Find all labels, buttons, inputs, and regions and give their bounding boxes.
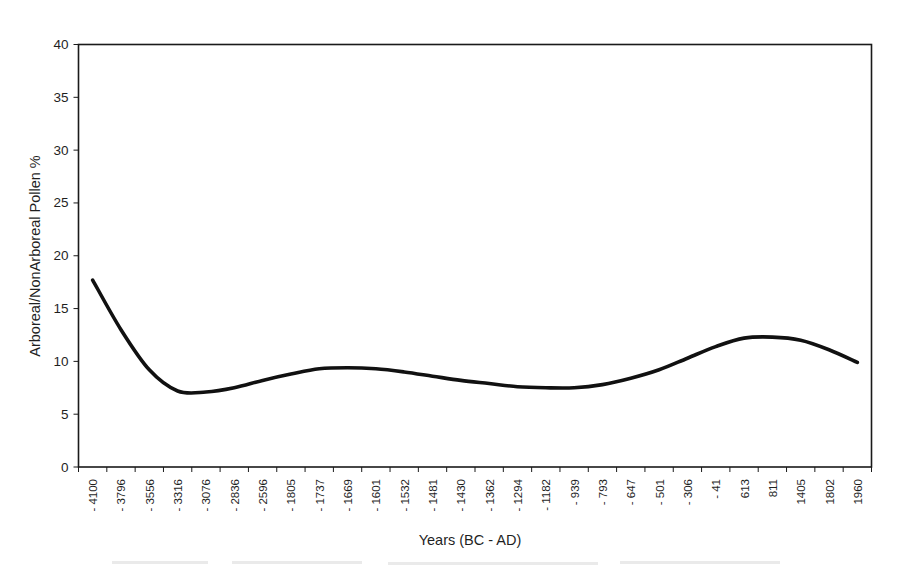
x-tick-label: - 1737 xyxy=(314,479,326,512)
x-tick-label: - 1294 xyxy=(512,478,524,511)
x-tick-label: - 1532 xyxy=(399,479,411,512)
pollen-percentage-chart: 0510152025303540 - 4100- 3796- 3556- 331… xyxy=(0,0,908,571)
x-tick-label: - 306 xyxy=(682,479,694,505)
y-tick-label: 5 xyxy=(61,407,69,422)
x-tick-label: - 647 xyxy=(625,479,637,505)
y-tick-label: 35 xyxy=(53,90,68,105)
y-tick-label: 25 xyxy=(53,195,68,210)
y-tick-label: 40 xyxy=(53,37,68,52)
x-tick-label: - 2836 xyxy=(229,479,241,512)
x-tick-label: - 939 xyxy=(569,479,581,505)
x-tick-label: - 1182 xyxy=(540,479,552,511)
x-tick-label: 613 xyxy=(739,479,751,498)
x-tick-label: - 2596 xyxy=(257,479,269,512)
x-tick-label: 1802 xyxy=(824,479,836,505)
y-axis-title: Arboreal/NonArboreal Pollen % xyxy=(27,155,43,357)
x-tick-label: - 1481 xyxy=(427,479,439,512)
x-axis-title: Years (BC - AD) xyxy=(419,532,522,548)
chart-canvas: 0510152025303540 - 4100- 3796- 3556- 331… xyxy=(0,0,908,571)
x-tick-label: - 3316 xyxy=(172,479,184,512)
x-tick-label: - 1430 xyxy=(455,479,467,512)
x-tick-label: - 1805 xyxy=(285,479,297,512)
y-tick-label: 15 xyxy=(53,301,68,316)
x-tick-label: - 501 xyxy=(654,479,666,505)
y-tick-label: 10 xyxy=(53,354,68,369)
x-tick-label: - 1601 xyxy=(370,479,382,512)
x-tick-label: 811 xyxy=(767,479,779,497)
y-tick-label: 30 xyxy=(53,143,68,158)
x-tick-label: 1960 xyxy=(852,479,864,505)
x-tick-label: - 1362 xyxy=(484,479,496,512)
x-tick-label: - 4100 xyxy=(87,479,99,512)
x-tick-label: - 793 xyxy=(597,479,609,505)
x-tick-label: - 3796 xyxy=(115,479,127,512)
x-tick-label: 1405 xyxy=(795,479,807,505)
x-tick-label: - 41 xyxy=(710,479,722,499)
y-tick-label: 20 xyxy=(53,248,68,263)
x-tick-label: - 1669 xyxy=(342,479,354,512)
x-tick-label: - 3076 xyxy=(200,479,212,512)
y-tick-label: 0 xyxy=(61,460,69,475)
x-tick-label: - 3556 xyxy=(144,479,156,512)
